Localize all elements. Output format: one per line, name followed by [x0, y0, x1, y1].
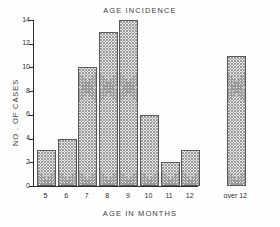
bars-group — [34, 20, 273, 186]
bar — [58, 139, 77, 186]
bar — [181, 150, 200, 186]
x-axis-baseline — [33, 186, 198, 187]
y-tick-label: 10 — [22, 63, 30, 70]
chart-figure: AGE INCIDENCE NO . OF CASES 02468101214 … — [0, 0, 280, 227]
bar — [119, 20, 138, 186]
y-tick-label: 14 — [22, 16, 30, 23]
y-tick-label: 6 — [26, 110, 30, 117]
bar — [37, 150, 56, 186]
y-tick-label: 8 — [26, 87, 30, 94]
x-tick-label: 12 — [170, 192, 209, 199]
plot-area: 02468101214 56789101112over 12 — [33, 20, 273, 186]
y-tick-label: 12 — [22, 39, 30, 46]
y-tick-label: 0 — [26, 182, 30, 189]
bar — [78, 67, 97, 186]
bar — [140, 115, 159, 186]
y-tick: 0 — [33, 186, 38, 187]
y-tick-label: 4 — [26, 134, 30, 141]
chart-title: AGE INCIDENCE — [0, 6, 280, 15]
y-axis-label: NO . OF CASES — [11, 65, 20, 161]
bar — [99, 32, 118, 186]
x-tick-label: over 12 — [216, 192, 255, 199]
x-axis-label: AGE IN MONTHS — [0, 209, 280, 218]
bar — [227, 56, 246, 186]
y-tick-label: 2 — [26, 158, 30, 165]
bar — [161, 162, 180, 186]
